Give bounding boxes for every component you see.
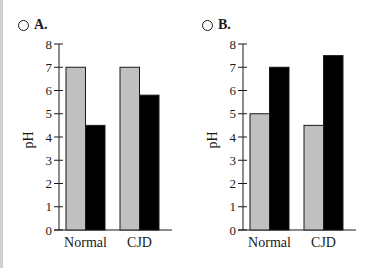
y-tick-label: 1 (46, 199, 53, 214)
y-axis-label: pH (205, 131, 220, 148)
y-tick-label: 5 (46, 106, 53, 121)
x-tick-label: Normal (248, 235, 291, 250)
chart-a: 012345678pHNormalCJD (0, 0, 184, 268)
y-tick-label: 3 (46, 153, 53, 168)
y-tick-label: 6 (230, 83, 237, 98)
bar-cjd-black (140, 95, 160, 230)
y-tick-label: 3 (230, 153, 237, 168)
x-tick-label: CJD (127, 235, 152, 250)
bar-cjd-gray (120, 67, 140, 230)
y-tick-label: 0 (230, 223, 237, 238)
bar-cjd-gray (304, 125, 324, 230)
bar-normal-gray (66, 67, 86, 230)
bar-normal-black (86, 125, 106, 230)
chart-b: 012345678pHNormalCJD (184, 0, 368, 268)
y-tick-label: 4 (46, 130, 53, 145)
x-tick-label: CJD (311, 235, 336, 250)
y-tick-label: 2 (46, 176, 53, 191)
y-tick-label: 8 (46, 37, 53, 52)
y-axis-label: pH (21, 131, 36, 148)
x-tick-label: Normal (64, 235, 107, 250)
y-tick-label: 1 (230, 199, 237, 214)
bar-cjd-black (324, 56, 344, 230)
y-tick-label: 8 (230, 37, 237, 52)
bar-normal-black (270, 67, 290, 230)
y-tick-label: 0 (46, 223, 53, 238)
y-tick-label: 6 (46, 83, 53, 98)
y-tick-label: 7 (46, 60, 53, 75)
y-tick-label: 4 (230, 130, 237, 145)
y-tick-label: 5 (230, 106, 237, 121)
y-tick-label: 2 (230, 176, 237, 191)
bar-normal-gray (250, 114, 270, 230)
y-tick-label: 7 (230, 60, 237, 75)
